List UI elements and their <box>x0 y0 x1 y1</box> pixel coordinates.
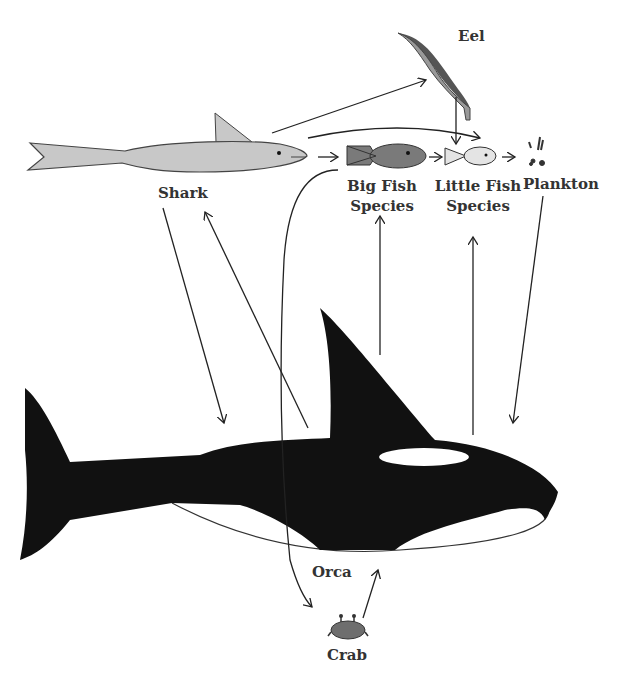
big-fish-icon <box>347 144 426 168</box>
plankton-label: Plankton <box>523 174 599 194</box>
arrow-orca-to-shark <box>205 212 308 428</box>
big-fish-label-line1: Big Fish <box>346 176 418 196</box>
little-fish-label-line2: Species <box>432 196 524 216</box>
food-web-diagram <box>0 0 620 680</box>
plankton-icon <box>529 137 545 166</box>
eel-icon <box>398 33 470 120</box>
arrow-plankton-to-orca <box>513 196 543 423</box>
little-fish-icon <box>445 147 496 165</box>
arrow-shark-to-little-fish <box>308 128 480 138</box>
arrow-crab-to-orca <box>363 570 378 618</box>
crab-label: Crab <box>327 645 367 665</box>
big-fish-label-line2: Species <box>346 196 418 216</box>
little-fish-label: Little Fish Species <box>432 176 524 216</box>
eel-label: Eel <box>458 26 485 46</box>
orca-label: Orca <box>312 562 352 582</box>
shark-icon <box>28 113 307 172</box>
crab-icon <box>328 614 368 639</box>
orca-icon <box>20 308 558 560</box>
arrow-shark-to-orca <box>163 208 224 423</box>
big-fish-label: Big Fish Species <box>346 176 418 216</box>
arrow-shark-to-eel <box>272 80 426 133</box>
shark-label: Shark <box>158 183 208 203</box>
little-fish-label-line1: Little Fish <box>432 176 524 196</box>
